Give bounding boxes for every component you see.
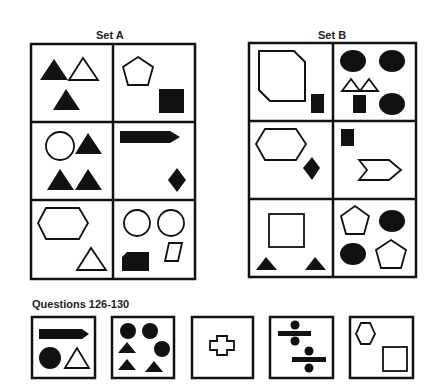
outline-parallelogram-icon [165,243,182,261]
filled-rectangle-icon [341,129,354,146]
divide-sign-icon [292,347,326,373]
filled-circle-icon [120,323,136,339]
filled-square-icon [159,89,184,113]
set-b-cell-2-1 [256,129,320,180]
filled-ellipse-icon [340,50,366,72]
filled-diamond-icon [168,168,186,192]
filled-diamond-icon [303,157,320,180]
set-b-cell-3-2 [340,206,406,268]
set-a-cell-1-1 [40,58,98,110]
question-127-shapes [118,323,170,372]
question-128-shapes [210,336,234,355]
filled-circle-icon [154,341,170,357]
question-130-shapes [356,323,407,371]
set-a-cell-1-2 [123,57,184,113]
filled-triangle-icon [256,257,277,270]
outline-triangle-icon [69,58,98,80]
filled-triangle-icon [145,361,163,372]
set-a-cell-2-2 [120,131,186,192]
outline-triangle-icon [342,79,360,91]
filled-circle-icon [39,347,61,369]
filled-circle-icon [142,323,158,339]
filled-ellipse-icon [379,50,405,72]
filled-arrow-bar-icon [120,131,180,143]
filled-triangle-icon [53,89,80,110]
outline-circle-icon [124,210,150,236]
filled-triangle-icon [118,342,136,353]
outline-cut-square-icon [259,51,305,101]
outline-pentagon-icon [376,240,406,268]
set-a-cell-2-1 [46,132,102,190]
outline-circle-icon [158,210,184,236]
filled-rectangle-icon [311,94,324,113]
outline-square-icon [383,347,407,371]
filled-triangle-icon [118,359,136,370]
divide-sign-icon [278,321,311,346]
set-b-cell-1-2 [340,50,405,115]
outline-chevron-icon [359,160,401,180]
set-b-cell-1-1 [259,51,324,113]
filled-ellipse-icon [379,210,405,232]
question-126-shapes [39,329,89,369]
outline-triangle-icon [77,248,106,270]
outline-hexagon-icon [38,208,88,239]
question-129-shapes [278,321,326,373]
set-b-cell-2-2 [341,129,401,180]
set-a-cell-3-2 [122,210,184,271]
outline-hexagon-icon [256,129,306,160]
outline-triangle-icon [360,79,378,91]
set-b-cell-3-1 [256,214,326,270]
filled-triangle-icon [75,133,102,154]
filled-arrow-bar-icon [39,329,89,339]
filled-triangle-icon [40,59,68,80]
filled-ellipse-icon [379,93,405,115]
puzzle-diagram [0,0,439,392]
filled-ellipse-icon [340,243,366,265]
outline-triangle-icon [65,348,89,368]
outline-square-icon [269,214,304,247]
outline-circle-icon [46,132,74,160]
filled-triangle-icon [305,257,326,270]
filled-cut-rectangle-icon [122,252,149,271]
question-box-129[interactable] [270,317,333,378]
set-a-cell-3-1 [38,208,106,270]
filled-triangle-icon [47,169,74,190]
outline-cross-icon [210,336,234,355]
outline-hexagon-icon [356,323,375,344]
outline-pentagon-icon [123,57,153,85]
filled-triangle-icon [75,169,102,190]
filled-rectangle-icon [353,95,366,113]
question-box-128[interactable] [192,317,253,378]
outline-pentagon-icon [341,206,369,234]
